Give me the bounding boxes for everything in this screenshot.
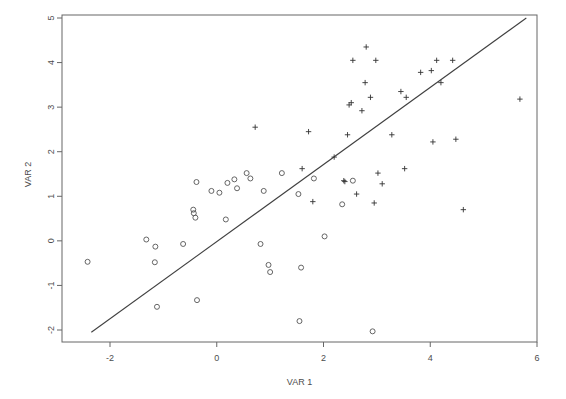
data-point-circle	[194, 180, 199, 185]
tick-marks-group	[57, 18, 537, 347]
data-point-plus	[354, 191, 359, 196]
data-point-circle	[311, 176, 316, 181]
x-tick-label: -2	[106, 353, 114, 363]
data-point-plus	[389, 132, 394, 137]
data-point-circle	[266, 262, 271, 267]
data-point-circle	[225, 180, 230, 185]
data-point-circle	[152, 260, 157, 265]
data-point-plus	[362, 80, 367, 85]
panel-border	[62, 15, 537, 342]
data-point-plus	[373, 58, 378, 63]
y-tick-label: 4	[46, 60, 56, 65]
data-point-circle	[268, 270, 273, 275]
y-tick-label: 2	[46, 149, 56, 154]
data-points-group	[85, 44, 523, 334]
panel-border-group	[62, 15, 537, 342]
data-point-plus	[453, 137, 458, 142]
data-point-plus	[310, 199, 315, 204]
y-axis-title: VAR 2	[23, 162, 33, 187]
data-point-plus	[372, 200, 377, 205]
data-point-circle	[195, 298, 200, 303]
data-point-circle	[322, 234, 327, 239]
data-point-plus	[398, 89, 403, 94]
y-tick-label: 5	[46, 15, 56, 20]
data-point-circle	[370, 329, 375, 334]
identity-line	[91, 18, 526, 332]
x-tick-label: 0	[214, 353, 219, 363]
data-point-plus	[342, 179, 347, 184]
series-group-circle	[85, 171, 375, 334]
data-point-circle	[85, 259, 90, 264]
x-tick-label: 2	[321, 353, 326, 363]
y-tick-label: 0	[46, 238, 56, 243]
x-tick-label: 4	[428, 353, 433, 363]
data-point-circle	[144, 237, 149, 242]
x-tick-label: 6	[534, 353, 539, 363]
data-point-circle	[350, 178, 355, 183]
data-point-circle	[258, 241, 263, 246]
data-point-circle	[244, 171, 249, 176]
scatter-plot-figure: -2-1012345-20246 VAR 1VAR 2	[0, 0, 566, 399]
data-point-circle	[279, 171, 284, 176]
data-point-circle	[217, 190, 222, 195]
data-point-plus	[429, 68, 434, 73]
data-point-circle	[299, 265, 304, 270]
plot-canvas: -2-1012345-20246 VAR 1VAR 2	[0, 0, 566, 399]
data-point-plus	[418, 70, 423, 75]
data-point-circle	[153, 244, 158, 249]
data-point-circle	[191, 207, 196, 212]
y-tick-label: 3	[46, 105, 56, 110]
data-point-plus	[252, 125, 257, 130]
data-point-plus	[359, 108, 364, 113]
data-point-circle	[181, 241, 186, 246]
data-point-plus	[364, 44, 369, 49]
data-point-plus	[450, 58, 455, 63]
data-point-circle	[235, 186, 240, 191]
data-point-plus	[402, 166, 407, 171]
y-tick-label: -2	[46, 326, 56, 334]
data-point-plus	[350, 58, 355, 63]
data-point-plus	[517, 96, 522, 101]
data-point-plus	[345, 132, 350, 137]
data-point-plus	[299, 166, 304, 171]
data-point-circle	[232, 177, 237, 182]
data-point-plus	[306, 129, 311, 134]
data-point-circle	[154, 304, 159, 309]
data-point-plus	[341, 178, 346, 183]
data-point-plus	[368, 95, 373, 100]
data-point-plus	[430, 139, 435, 144]
data-point-circle	[223, 217, 228, 222]
data-point-plus	[375, 170, 380, 175]
data-point-circle	[261, 188, 266, 193]
y-tick-label: 1	[46, 194, 56, 199]
data-point-circle	[209, 188, 214, 193]
data-point-plus	[404, 95, 409, 100]
data-point-circle	[248, 176, 253, 181]
data-point-circle	[296, 192, 301, 197]
data-point-circle	[193, 215, 198, 220]
data-point-plus	[380, 181, 385, 186]
x-axis-title: VAR 1	[287, 377, 312, 387]
data-point-plus	[434, 58, 439, 63]
reference-line-group	[91, 18, 526, 332]
data-point-circle	[340, 202, 345, 207]
data-point-circle	[297, 319, 302, 324]
data-point-plus	[461, 207, 466, 212]
y-tick-label: -1	[46, 281, 56, 289]
